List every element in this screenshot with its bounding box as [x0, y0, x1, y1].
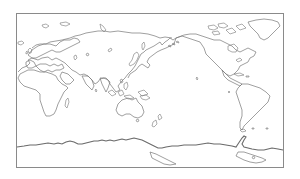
falklands	[252, 128, 254, 129]
japan	[129, 52, 139, 66]
tierra-del-fuego	[240, 129, 246, 132]
svalbard	[42, 22, 70, 28]
north-america-coastline	[176, 34, 256, 76]
canadian-arctic-islands	[208, 23, 246, 35]
galapagos	[228, 91, 230, 93]
mediterranean-coast	[36, 64, 64, 72]
iceland	[18, 41, 24, 45]
south-america-coastline	[236, 84, 270, 130]
aral-lake	[86, 53, 89, 56]
sri-lanka	[95, 89, 97, 92]
australia-coastline	[116, 98, 144, 118]
world-map	[0, 0, 300, 179]
central-america-coastline	[222, 70, 242, 86]
caspian-sea	[74, 55, 77, 60]
iberia-coast	[26, 60, 36, 68]
taiwan-philippines	[120, 79, 128, 90]
baikal-lake	[108, 48, 112, 52]
berkner-island	[252, 156, 255, 159]
greenland-coastline	[248, 19, 280, 40]
new-guinea	[140, 95, 150, 100]
new-zealand	[152, 114, 162, 127]
great-lakes	[236, 58, 242, 62]
eurasia-coastline	[18, 38, 176, 92]
arabia-coastline	[60, 72, 74, 84]
india-coastline	[82, 76, 94, 90]
hudson-bay	[228, 44, 238, 52]
arctic-coast	[32, 31, 172, 48]
tasmania	[136, 119, 139, 122]
hawaii	[196, 77, 198, 80]
madagascar	[65, 98, 69, 108]
south-georgia	[266, 128, 268, 129]
antarctica-coastline	[17, 136, 283, 150]
cuba-caribbean	[234, 73, 249, 77]
indochina-coastline	[100, 78, 110, 92]
ross-ice-shelf	[150, 152, 176, 165]
sakhalin	[142, 42, 145, 50]
weddell-sea-shelf	[236, 152, 266, 163]
